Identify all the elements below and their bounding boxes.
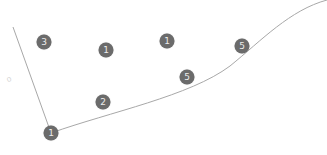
numbered-marker[interactable]: 5: [235, 39, 250, 54]
numbered-marker[interactable]: 1: [44, 126, 59, 141]
numbered-marker[interactable]: 1: [160, 34, 175, 49]
numbered-marker[interactable]: 1: [99, 43, 114, 58]
numbered-marker[interactable]: 2: [96, 95, 111, 110]
numbered-marker[interactable]: 3: [37, 35, 52, 50]
main-curve-line: [51, 0, 327, 133]
numbered-marker[interactable]: 5: [180, 70, 195, 85]
